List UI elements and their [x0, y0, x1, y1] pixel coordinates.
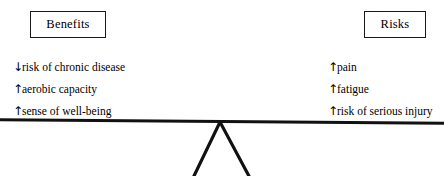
risks-heading-label: Risks — [381, 18, 410, 31]
down-arrow-icon: ↓ — [13, 56, 22, 78]
up-arrow-icon: ↑ — [328, 100, 337, 122]
up-arrow-icon: ↑ — [328, 78, 337, 100]
list-item: ↑ pain — [328, 56, 444, 78]
list-item-label: pain — [337, 56, 357, 78]
up-arrow-icon: ↑ — [328, 56, 337, 78]
up-arrow-icon: ↑ — [13, 78, 22, 100]
list-item: ↑ fatigue — [328, 78, 444, 100]
list-item: ↓ risk of chronic disease — [13, 56, 223, 78]
list-item-label: aerobic capacity — [22, 78, 97, 100]
benefits-heading-box: Benefits — [30, 11, 106, 38]
list-item: ↑ risk of serious injury — [328, 100, 444, 122]
list-item: ↑ aerobic capacity — [13, 78, 223, 100]
benefits-item-list: ↓ risk of chronic disease ↑ aerobic capa… — [13, 56, 223, 122]
risks-item-list: ↑ pain ↑ fatigue ↑ risk of serious injur… — [328, 56, 444, 122]
list-item-label: risk of chronic disease — [22, 56, 125, 78]
balance-diagram: Benefits Risks ↓ risk of chronic disease… — [0, 0, 444, 176]
benefits-heading-label: Benefits — [46, 18, 89, 31]
fulcrum-shape — [180, 120, 272, 176]
list-item-label: fatigue — [337, 78, 369, 100]
fulcrum-triangle — [180, 120, 272, 176]
list-item-label: risk of serious injury — [337, 100, 433, 122]
risks-heading-box: Risks — [364, 11, 426, 38]
